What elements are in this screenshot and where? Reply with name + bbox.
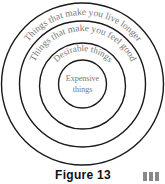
ring-second <box>20 21 146 147</box>
center-label-line1: Expensive <box>66 74 100 83</box>
center-label-line2: things <box>73 85 93 94</box>
ring-label-desirable: Desirable things <box>51 43 115 64</box>
concentric-circles-diagram: Things that make you live longer Things … <box>0 0 165 184</box>
ring-inner <box>59 60 107 108</box>
figure-caption: Figure 13 <box>55 168 111 182</box>
decorative-bars-icon <box>143 172 159 181</box>
